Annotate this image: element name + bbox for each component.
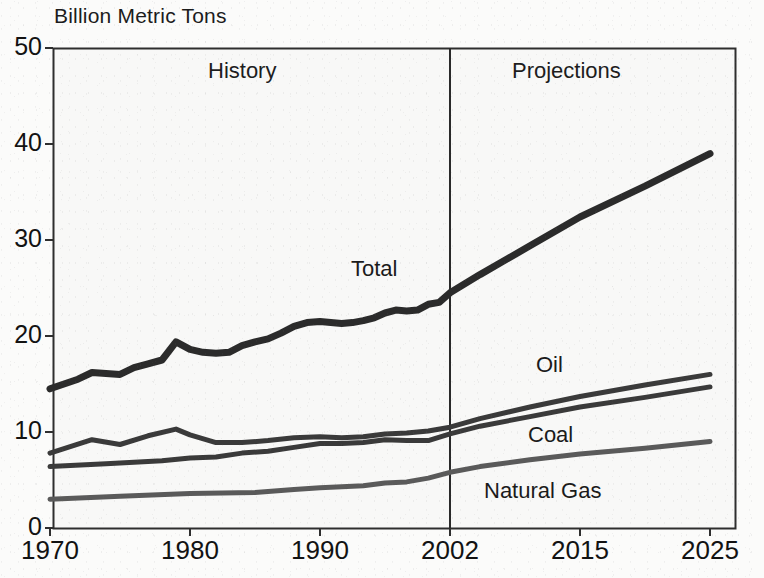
series-label-total: Total [351, 256, 397, 282]
x-tick-label-1970: 1970 [8, 535, 92, 566]
x-tick-label-1990: 1990 [278, 535, 362, 566]
x-tick-label-2002: 2002 [408, 535, 492, 566]
y-tick-label-30: 30 [0, 224, 42, 253]
plot-area [0, 0, 764, 578]
annotation-history: History [208, 58, 276, 84]
y-tick-label-20: 20 [0, 320, 42, 349]
series-label-natural-gas: Natural Gas [484, 478, 601, 504]
x-tick-label-1980: 1980 [148, 535, 232, 566]
y-tick-label-50: 50 [0, 32, 42, 61]
x-tick-label-2015: 2015 [538, 535, 622, 566]
series-label-coal: Coal [528, 422, 573, 448]
series-label-oil: Oil [536, 352, 563, 378]
y-tick-label-40: 40 [0, 128, 42, 157]
y-axis-title: Billion Metric Tons [54, 4, 227, 28]
y-tick-label-10: 10 [0, 416, 42, 445]
emissions-line-chart: Billion Metric Tons 50 40 30 20 10 0 197… [0, 0, 764, 578]
annotation-projections: Projections [512, 58, 621, 84]
x-tick-label-2025: 2025 [668, 535, 752, 566]
plot-frame [54, 49, 736, 529]
